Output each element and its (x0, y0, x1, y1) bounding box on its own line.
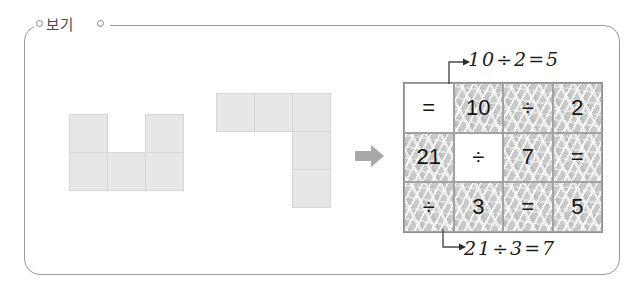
puzzle-cell-r2-c4[interactable]: = (553, 133, 603, 183)
shape-square (292, 131, 331, 170)
puzzle-cell-r3-c3[interactable]: = (503, 182, 553, 232)
puzzle-cell-text: 21 (417, 146, 441, 168)
shape-square (216, 93, 255, 132)
puzzle-cell-r2-c3[interactable]: 7 (503, 133, 553, 183)
example-label: 보기 (46, 16, 74, 34)
shape-square (292, 169, 331, 208)
puzzle-cell-text: 2 (571, 97, 583, 119)
puzzle-cell-text: 3 (472, 196, 484, 218)
label-dot-right-icon (97, 20, 104, 27)
shape-square (107, 152, 146, 191)
puzzle-cell-r1-c4[interactable]: 2 (553, 83, 603, 133)
shape-square (145, 152, 184, 191)
shape-square (145, 114, 184, 153)
annotation-bottom: 21÷3=7 (464, 237, 556, 259)
puzzle-cell-r3-c1[interactable]: ÷ (404, 182, 454, 232)
shape-l-pentomino (216, 93, 336, 213)
label-dot-left-icon (36, 20, 43, 27)
puzzle-cell-text: ÷ (472, 146, 484, 168)
puzzle-cell-text: = (422, 97, 435, 119)
puzzle-cell-r3-c2[interactable]: 3 (454, 182, 504, 232)
puzzle-cell-r1-c1[interactable]: = (404, 83, 454, 133)
puzzle-cell-text: 5 (571, 196, 583, 218)
puzzle-cell-r2-c1[interactable]: 21 (404, 133, 454, 183)
puzzle-cell-r1-c2[interactable]: 10 (454, 83, 504, 133)
puzzle-cell-r3-c4[interactable]: 5 (553, 182, 603, 232)
puzzle-cell-text: = (521, 196, 534, 218)
shape-square (69, 114, 108, 153)
shape-u-pentomino (69, 114, 187, 194)
puzzle-cell-text: 10 (466, 97, 490, 119)
puzzle-cell-r2-c2[interactable]: ÷ (454, 133, 504, 183)
shape-square (292, 93, 331, 132)
equation-puzzle-grid: =10÷221÷7=÷3=5 (403, 82, 603, 233)
puzzle-cell-r1-c3[interactable]: ÷ (503, 83, 553, 133)
puzzle-cell-text: = (571, 146, 584, 168)
puzzle-cell-text: 7 (522, 146, 534, 168)
right-arrow-icon (355, 145, 385, 167)
puzzle-cell-text: ÷ (423, 196, 435, 218)
shape-square (254, 93, 293, 132)
shape-square (69, 152, 108, 191)
puzzle-cell-text: ÷ (522, 97, 534, 119)
annotation-top: 10÷2=5 (468, 48, 560, 70)
